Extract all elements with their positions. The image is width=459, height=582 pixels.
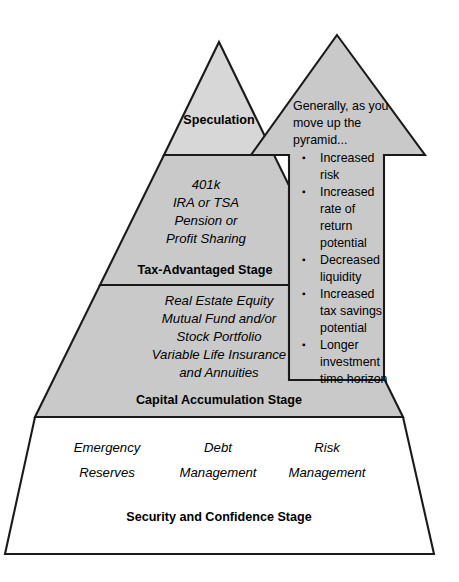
arrow-intro-line-1: move up the xyxy=(293,116,361,130)
tier-security-confidence-shape[interactable] xyxy=(5,417,434,554)
tier-security-confidence-stage-label: Security and Confidence Stage xyxy=(126,510,311,524)
tier-tax-advantaged-item-0: 401k xyxy=(192,177,222,192)
tier-security-column-2-line-0: Risk xyxy=(314,440,341,455)
arrow-bullet-1-line-0: Increased xyxy=(320,185,375,199)
arrow-bullet-4-line-0: Longer xyxy=(320,338,359,352)
tier-tax-advantaged-item-2: Pension or xyxy=(174,213,238,228)
arrow-bullet-1-line-1: rate of xyxy=(320,202,356,216)
arrow-intro-line-0: Generally, as you xyxy=(293,99,389,113)
tier-tax-advantaged-item-3: Profit Sharing xyxy=(166,231,247,246)
pyramid-svg: Speculation 401k IRA or TSA Pension or P… xyxy=(0,0,459,582)
arrow-bullet-0-line-1: risk xyxy=(320,168,340,182)
arrow-intro-line-2: pyramid... xyxy=(293,133,347,147)
financial-pyramid-diagram: Speculation 401k IRA or TSA Pension or P… xyxy=(0,0,459,582)
tier-speculation-stage-label: Speculation xyxy=(183,113,254,127)
arrow-bullet-3-line-1: tax savings xyxy=(320,304,382,318)
tier-capital-accumulation-stage-label: Capital Accumulation Stage xyxy=(136,393,302,407)
arrow-bullet-1-line-2: return xyxy=(320,219,352,233)
tier-security-column-0-line-0: Emergency xyxy=(74,440,142,455)
arrow-bullet-4-line-2: time horizon xyxy=(320,372,388,386)
tier-capital-accumulation-item-4: and Annuities xyxy=(179,365,259,380)
tier-capital-accumulation-item-1: Mutual Fund and/or xyxy=(162,311,277,326)
arrow-bullet-3-line-0: Increased xyxy=(320,287,375,301)
tier-tax-advantaged-stage-label: Tax-Advantaged Stage xyxy=(138,263,273,277)
tier-capital-accumulation-item-3: Variable Life Insurance xyxy=(152,347,286,362)
arrow-bullet-2-glyph: ▪ xyxy=(302,254,306,265)
arrow-bullet-0-glyph: ▪ xyxy=(302,152,306,163)
tier-capital-accumulation-item-0: Real Estate Equity xyxy=(165,293,275,308)
arrow-bullet-4-glyph: ▪ xyxy=(302,339,306,350)
tier-tax-advantaged-item-1: IRA or TSA xyxy=(173,195,239,210)
tier-security-column-1-line-1: Management xyxy=(180,465,258,480)
tier-capital-accumulation-item-2: Stock Portfolio xyxy=(176,329,261,344)
tier-security-column-1-line-0: Debt xyxy=(204,440,233,455)
tier-security-column-2-line-1: Management xyxy=(289,465,367,480)
arrow-bullet-1-line-3: potential xyxy=(320,236,367,250)
arrow-bullet-3-glyph: ▪ xyxy=(302,288,306,299)
arrow-bullet-4-line-1: investment xyxy=(320,355,380,369)
arrow-bullet-3-line-2: potential xyxy=(320,321,367,335)
arrow-bullet-0-line-0: Increased xyxy=(320,151,375,165)
tier-security-column-0-line-1: Reserves xyxy=(79,465,135,480)
arrow-bullet-1-glyph: ▪ xyxy=(302,186,306,197)
tier-speculation-shape[interactable] xyxy=(164,42,274,155)
arrow-bullet-2-line-0: Decreased xyxy=(320,253,380,267)
arrow-bullet-2-line-1: liquidity xyxy=(320,270,362,284)
